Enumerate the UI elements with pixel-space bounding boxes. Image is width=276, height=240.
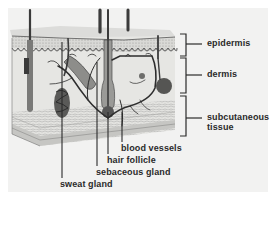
label-blood-vessels: blood vessels — [121, 144, 182, 153]
label-sweat-gland: sweat gland — [60, 180, 113, 189]
skin-block — [12, 36, 177, 146]
label-dermis: dermis — [207, 70, 237, 79]
label-subcutaneous-line1: subcutaneous — [207, 113, 269, 122]
layer-brackets — [180, 34, 202, 136]
label-sebaceous-gland: sebaceous gland — [96, 168, 171, 177]
label-subcutaneous-line2: tissue — [207, 123, 234, 132]
label-hair-follicle: hair follicle — [107, 156, 156, 165]
label-epidermis: epidermis — [207, 39, 250, 48]
